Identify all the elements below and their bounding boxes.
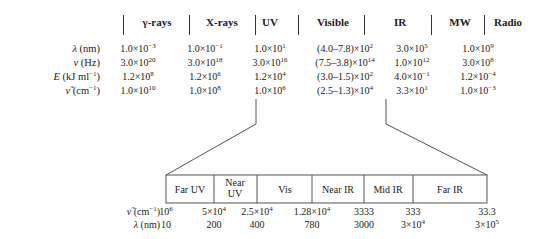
wavenumber-value: 333 xyxy=(383,206,443,217)
connector-lines xyxy=(0,0,540,239)
region-vis: Vis xyxy=(260,184,310,195)
wavelength-value: 780 xyxy=(282,219,342,230)
wavenumber-value: 33.3 xyxy=(457,206,517,217)
region-near-ir: Near IR xyxy=(313,184,363,195)
wavenumber-value: 2.5×104 xyxy=(227,206,287,217)
wavenumber-value: 1.28×104 xyxy=(282,206,342,217)
region-mid-ir: Mid IR xyxy=(363,184,413,195)
region-far-ir: Far IR xyxy=(425,184,475,195)
wavelength-value: 3×104 xyxy=(383,219,443,230)
region-near-uv: NearUV xyxy=(210,177,260,199)
wavelength-value: 400 xyxy=(227,219,287,230)
wavelength-value: 3×105 xyxy=(457,219,517,230)
region-far-uv: Far UV xyxy=(165,184,215,195)
